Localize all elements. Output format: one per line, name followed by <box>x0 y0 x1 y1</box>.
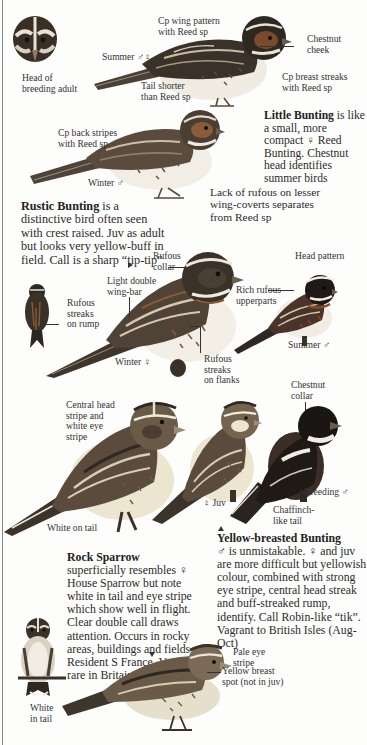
page-edge-line <box>2 0 3 745</box>
little-bunting-description: Little Bunting is like a small, more com… <box>264 110 366 186</box>
species-name-rustic-bunting: Rustic Bunting <box>21 199 99 213</box>
little-bunting-head-illustration <box>10 14 60 64</box>
yellow-breasted-bunting-description: Yellow-breasted Bunting♂ is unmistakable… <box>217 532 367 650</box>
label-lesser-wing-coverts: Lack of rufous on lesser wing-coverts se… <box>210 186 360 223</box>
label-white-on-tail: White on tail <box>47 523 97 534</box>
label-summer-male: Summer ♂ <box>288 340 330 351</box>
rock-sparrow-front-view-illustration <box>14 616 66 698</box>
label-central-head-stripe: Central head stripe and white eye stripe <box>66 400 115 442</box>
label-chestnut-cheek: Chestnut cheek <box>307 34 341 55</box>
leader-line-flanks-v <box>200 326 201 353</box>
label-white-in-tail: White in tail <box>30 703 53 724</box>
label-rufous-collar: Rufous collar <box>153 251 181 272</box>
label-winter-male: Winter ♂ <box>88 178 124 189</box>
label-winter-female: Winter ♀ <box>115 357 151 368</box>
label-rich-rufous-upperparts: Rich rufous upperparts <box>236 285 281 306</box>
label-summer-sex: Summer ♂♀ <box>102 52 151 63</box>
species-name-little-bunting: Little Bunting <box>264 109 334 122</box>
little-bunting-winter-illustration <box>30 106 225 200</box>
label-head-pattern: Head pattern <box>295 251 344 262</box>
label-yellow-breast-spot: Yellow breast spot (not in juv) <box>222 666 284 687</box>
leader-line-breast-spot <box>207 672 221 673</box>
leader-line-cheek <box>260 46 294 47</box>
leader-line-upperparts <box>268 290 294 291</box>
leader-line-collar <box>168 267 186 268</box>
label-light-double-wing-bar: Light double wing-bar <box>107 276 156 297</box>
label-back-stripes: Cp back stripes with Reed sp <box>58 128 117 149</box>
label-rufous-streaks-flanks: Rufous streaks on flanks <box>204 354 239 386</box>
species-name-rock-sparrow: Rock Sparrow <box>67 550 140 564</box>
label-breeding-male: Breeding ♂ <box>304 487 349 498</box>
label-breast-streaks: Cp breast streaks with Reed sp <box>282 72 348 93</box>
rock-sparrow-side-view-illustration <box>62 640 232 734</box>
label-tail-shorter: Tail shorter than Reed sp <box>141 81 191 102</box>
label-wing-pattern: Cp wing pattern with Reed sp <box>158 16 220 37</box>
label-chaffinch-like-tail: Chaffinch- like tail <box>273 505 314 526</box>
label-chestnut-collar: Chestnut collar <box>291 380 325 401</box>
label-head-breeding-adult: Head of breeding adult <box>22 73 77 94</box>
field-guide-page: Head of breeding adult Cp wing pattern w… <box>0 0 367 745</box>
label-female-juv: ♀ Juv <box>203 498 226 509</box>
leader-line-wing-bar <box>129 297 130 317</box>
